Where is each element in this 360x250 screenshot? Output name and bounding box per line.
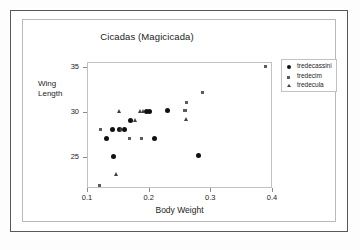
data-point-tredecassini <box>104 136 109 141</box>
legend: tredecassinitredecimtredecula <box>281 59 337 92</box>
data-point-tredecula <box>133 118 137 122</box>
y-axis-label-line1: Wing <box>38 79 84 89</box>
legend-item-tredecula[interactable]: tredecula <box>285 82 337 92</box>
legend-label: tredecula <box>297 81 324 88</box>
data-point-tredecassini <box>110 127 115 132</box>
data-point-tredecim <box>99 128 102 131</box>
y-tick-mark <box>83 67 87 68</box>
data-point-tredecula <box>114 172 118 176</box>
data-point-tredecim <box>201 91 204 94</box>
data-point-tredecula <box>119 127 123 131</box>
plot-area <box>87 62 272 188</box>
x-tick-mark <box>272 188 273 192</box>
data-point-tredecassini <box>111 154 116 159</box>
data-point-tredecim <box>185 101 188 104</box>
data-point-tredecassini <box>165 108 170 113</box>
data-point-tredecim <box>183 109 186 112</box>
data-point-tredecim <box>128 137 131 140</box>
chart-screenshot: Cicadas (Magicicada) Wing Length Body We… <box>0 0 360 250</box>
data-point-tredecim <box>140 137 143 140</box>
x-tick-mark <box>149 188 150 192</box>
data-point-tredecassini <box>128 118 133 123</box>
square-marker-icon <box>287 76 290 79</box>
y-tick-mark <box>83 157 87 158</box>
y-axis-label-line2: Length <box>38 89 84 99</box>
x-axis-label: Body Weight <box>87 205 272 215</box>
x-tick-label: 0.1 <box>76 193 98 202</box>
x-tick-label: 0.4 <box>261 193 283 202</box>
x-tick-mark <box>210 188 211 192</box>
data-point-tredecula <box>117 109 121 113</box>
data-point-tredecassini <box>147 109 152 114</box>
legend-label: tredecassini <box>297 62 332 69</box>
y-tick-label: 25 <box>59 152 79 161</box>
x-tick-mark <box>87 188 88 192</box>
chart-title: Cicadas (Magicicada) <box>22 31 272 42</box>
data-point-tredecim <box>264 65 267 68</box>
triangle-marker-icon <box>287 84 291 87</box>
y-tick-label: 35 <box>59 62 79 71</box>
data-point-tredecula <box>184 117 188 121</box>
circle-marker-icon <box>287 65 291 69</box>
data-point-tredecim <box>98 184 101 187</box>
y-tick-label: 30 <box>59 107 79 116</box>
y-axis-label: Wing Length <box>38 79 84 99</box>
x-tick-label: 0.3 <box>199 193 221 202</box>
legend-label: tredecim <box>297 72 322 79</box>
y-tick-mark <box>83 112 87 113</box>
x-tick-label: 0.2 <box>138 193 160 202</box>
data-point-tredecula <box>141 109 145 113</box>
